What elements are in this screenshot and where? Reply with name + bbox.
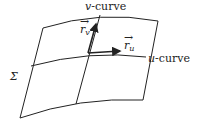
r-u-vector [88,51,120,53]
v-curve-label: v-curve [85,0,126,13]
r-v-arrow-accent: → [80,15,89,28]
surface-diagram: v-curve u-curve Σ rv ru → → [0,0,200,129]
surface-left-edge [20,28,43,118]
u-curve-label: u-curve [148,52,190,65]
surface-bottom-edge [20,100,143,118]
r-u-arrow-accent: → [124,31,133,44]
surface-top-edge [43,17,158,28]
surface-sigma-label: Σ [9,70,18,83]
